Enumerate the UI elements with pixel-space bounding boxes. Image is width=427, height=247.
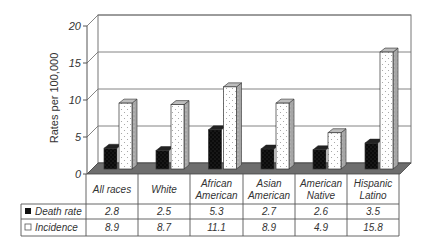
bar-incidence — [328, 129, 346, 169]
y-axis: 05101520 — [68, 20, 87, 180]
row-label: Death rate — [35, 206, 82, 217]
y-tick-label: 5 — [75, 131, 82, 143]
legend-swatch-death-rate — [25, 208, 31, 214]
table-cell: 8.9 — [105, 222, 119, 233]
bar-incidence — [380, 48, 398, 169]
data-table: All racesWhiteAfricanAmericanAsianAmeric… — [21, 174, 399, 236]
y-axis-label: Rates per 100,000 — [48, 53, 60, 144]
category-label: AfricanAmerican — [194, 178, 238, 201]
table-cell: 5.3 — [210, 206, 224, 217]
row-label: Incidence — [35, 222, 78, 233]
table-cell: 15.8 — [363, 222, 383, 233]
table-row: Death rate2.82.55.32.72.63.5 — [25, 206, 380, 217]
svg-text:American: American — [247, 190, 291, 201]
y-tick-label: 0 — [75, 168, 82, 180]
table-cell: 8.9 — [262, 222, 276, 233]
bar-incidence — [119, 99, 137, 169]
table-cell: 2.8 — [104, 206, 119, 217]
category-label: All races — [92, 184, 131, 195]
table-cell: 8.7 — [157, 222, 171, 233]
y-tick-label: 15 — [69, 57, 82, 69]
table-cell: 2.7 — [261, 206, 276, 217]
svg-text:Latino: Latino — [359, 190, 387, 201]
category-label: AsianAmerican — [247, 178, 291, 201]
category-label: AmericanNative — [299, 178, 343, 201]
y-tick-label: 20 — [68, 20, 82, 32]
legend-swatch-incidence — [25, 224, 31, 230]
table-cell: 2.6 — [313, 206, 328, 217]
svg-text:White: White — [151, 184, 177, 195]
svg-text:American: American — [299, 178, 343, 189]
svg-text:Native: Native — [307, 190, 336, 201]
bar-chart: 05101520 Rates per 100,000 All racesWhit… — [0, 0, 427, 247]
bar-incidence — [171, 101, 189, 169]
table-cell: 2.5 — [156, 206, 171, 217]
svg-text:Hispanic: Hispanic — [354, 178, 392, 189]
category-label: White — [151, 184, 177, 195]
y-tick-label: 10 — [69, 94, 82, 106]
svg-text:American: American — [194, 190, 238, 201]
table-row: Incidence8.98.711.18.94.915.8 — [25, 222, 383, 233]
svg-text:Asian: Asian — [255, 178, 281, 189]
table-cell: 11.1 — [207, 222, 226, 233]
category-label: HispanicLatino — [354, 178, 392, 201]
svg-text:All races: All races — [92, 184, 131, 195]
table-cell: 4.9 — [314, 222, 328, 233]
svg-text:African: African — [200, 178, 233, 189]
table-cell: 3.5 — [366, 206, 380, 217]
bar-incidence — [224, 83, 242, 169]
bar-incidence — [276, 99, 294, 169]
